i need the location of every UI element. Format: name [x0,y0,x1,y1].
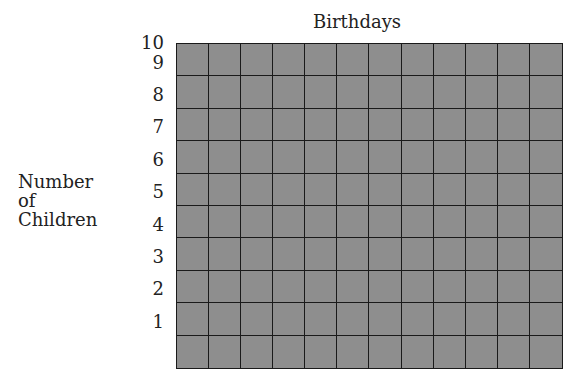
grid-cell [273,303,305,335]
grid-cell [209,238,241,270]
grid-cell [369,336,401,368]
grid-cell [402,141,434,173]
grid-cell [530,174,562,206]
grid-cell [466,303,498,335]
grid-cell [498,238,530,270]
grid-cell [530,206,562,238]
grid-cell [369,271,401,303]
grid-cell [305,76,337,108]
grid-cell [241,109,273,141]
grid-cell [337,141,369,173]
grid-cell [434,76,466,108]
grid-cell [402,76,434,108]
grid-cell [369,303,401,335]
grid-cell [241,303,273,335]
y-tick: 5 [153,183,164,201]
grid-cell [530,141,562,173]
y-axis-label-line: Children [18,210,97,229]
grid-cell [434,44,466,76]
y-tick: 4 [153,216,164,234]
y-tick: 8 [153,86,164,104]
grid-cell [498,141,530,173]
grid-cell [434,336,466,368]
grid-cell [305,174,337,206]
grid-cell [209,174,241,206]
grid-cell [530,336,562,368]
grid-cell [241,141,273,173]
grid-cell [209,44,241,76]
grid-cell [241,174,273,206]
grid-cell [177,174,209,206]
grid-cell [402,271,434,303]
grid-cell [209,271,241,303]
grid-cell [530,76,562,108]
grid-cell [337,271,369,303]
grid-cell [273,109,305,141]
y-axis-label-line: Number [18,172,97,191]
grid-cell [177,44,209,76]
grid-cell [498,174,530,206]
grid-cell [337,174,369,206]
grid-cell [466,271,498,303]
grid-cell [305,44,337,76]
y-tick: 1 [153,313,164,331]
grid-cell [402,303,434,335]
grid-cell [305,271,337,303]
grid-cell [337,44,369,76]
grid-cell [402,44,434,76]
grid-cell [466,141,498,173]
grid-cell [241,336,273,368]
grid-cell [337,238,369,270]
grid-cell [530,44,562,76]
grid-cell [466,174,498,206]
y-tick: 9 [153,54,164,72]
grid-cell [241,238,273,270]
grid-cell [241,44,273,76]
grid-cell [177,141,209,173]
grid-cell [402,238,434,270]
grid-cell [466,206,498,238]
grid-cell [241,206,273,238]
grid-cell [369,76,401,108]
grid-cell [369,174,401,206]
grid-cell [369,238,401,270]
grid-cell [177,206,209,238]
grid-cell [209,141,241,173]
grid-cell [337,109,369,141]
grid-cell [498,109,530,141]
grid-cell [434,238,466,270]
grid-cell [305,109,337,141]
grid-cell [305,303,337,335]
y-tick: 10 [141,34,164,52]
grid-cell [466,44,498,76]
y-tick: 2 [153,280,164,298]
grid-cell [177,109,209,141]
y-axis-label-line: of [18,191,97,210]
grid-cell [369,109,401,141]
grid-cell [305,141,337,173]
grid-cell [209,303,241,335]
grid-cell [337,206,369,238]
grid-cell [177,238,209,270]
grid-cell [273,206,305,238]
grid-cell [177,76,209,108]
grid-cell [434,109,466,141]
grid-cell [209,206,241,238]
grid-cell [530,271,562,303]
grid-cell [466,238,498,270]
grid-cell [498,44,530,76]
grid-cell [498,76,530,108]
grid-cell [305,238,337,270]
grid-cell [402,206,434,238]
grid-cell [241,76,273,108]
grid-cell [466,336,498,368]
grid-cell [530,303,562,335]
grid-cell [402,174,434,206]
plot-grid [176,43,563,369]
grid-cell [498,303,530,335]
grid-cell [434,303,466,335]
grid-cell [209,109,241,141]
grid-cell [466,76,498,108]
grid-cell [273,141,305,173]
grid-cell [337,336,369,368]
